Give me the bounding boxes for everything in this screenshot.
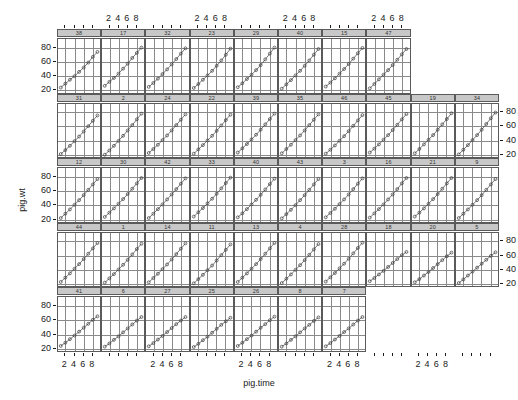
chart-panel — [322, 103, 366, 159]
panel-strip: 4 — [278, 223, 322, 231]
x-axis-tick — [224, 353, 225, 356]
x-axis-tick-label: 2 — [194, 13, 199, 23]
x-axis-tick — [127, 25, 128, 28]
data-series — [191, 297, 234, 352]
chart-panel — [57, 232, 101, 288]
panel-strip: 28 — [322, 223, 366, 231]
chart-panel — [366, 103, 410, 159]
panel-strip-label: 31 — [58, 94, 100, 102]
data-series — [102, 233, 145, 288]
y-axis-tick — [500, 255, 503, 256]
y-axis-tick-label: 40 — [31, 70, 51, 80]
x-axis-tick — [136, 25, 137, 28]
x-axis-tick — [383, 353, 384, 356]
panel-strip: 12 — [57, 158, 101, 166]
panel-strip: 26 — [234, 287, 278, 295]
panel-strip-label: 18 — [367, 223, 409, 231]
x-axis-tick — [171, 353, 172, 356]
chart-panel — [57, 167, 101, 223]
x-axis-tick — [180, 25, 181, 28]
panel-strip: 40 — [278, 29, 322, 37]
chart-panel — [101, 296, 145, 352]
y-axis-tick — [500, 240, 503, 241]
x-axis-tick — [92, 25, 93, 28]
panel-strip-label: 29 — [235, 29, 277, 37]
panel-strip: 6 — [101, 287, 145, 295]
x-axis-tick-label: 2 — [415, 359, 420, 369]
x-axis-tick — [215, 25, 216, 28]
x-axis-tick-label: 8 — [399, 13, 404, 23]
y-axis-tick-label: 20 — [31, 84, 51, 94]
y-axis-tick — [53, 348, 56, 349]
y-axis-tick-label: 60 — [31, 314, 51, 324]
x-axis-tick — [304, 25, 305, 28]
chart-panel — [190, 296, 234, 352]
chart-panel — [234, 167, 278, 223]
panel-strip: 21 — [411, 158, 455, 166]
x-axis-tick — [295, 353, 296, 356]
x-axis-tick-label: 2 — [62, 359, 67, 369]
chart-panel — [278, 103, 322, 159]
y-axis-tick — [53, 334, 56, 335]
x-axis-tick — [480, 353, 481, 356]
chart-panel — [278, 232, 322, 288]
y-axis-tick — [53, 204, 56, 205]
x-axis-tick — [401, 353, 402, 356]
x-axis-tick — [330, 353, 331, 356]
x-axis-tick-label: 2 — [371, 13, 376, 23]
data-series — [235, 39, 278, 94]
x-axis-tick — [304, 353, 305, 356]
x-axis-tick — [118, 25, 119, 28]
x-axis-tick — [197, 353, 198, 356]
data-series — [323, 233, 366, 288]
x-axis-tick — [206, 25, 207, 28]
y-axis-tick — [53, 89, 56, 90]
y-axis-tick — [500, 269, 503, 270]
panel-strip: 16 — [366, 158, 410, 166]
data-series — [279, 104, 322, 159]
x-axis-tick-label: 6 — [169, 359, 174, 369]
panel-strip-label: 20 — [412, 223, 454, 231]
panel-strip-label: 47 — [367, 29, 409, 37]
panel-strip-label: 28 — [323, 223, 365, 231]
panel-strip: 17 — [101, 29, 145, 37]
panel-strip-label: 25 — [191, 287, 233, 295]
data-series — [323, 104, 366, 159]
panel-strip-label: 1 — [102, 223, 144, 231]
panel-strip-label: 42 — [146, 158, 188, 166]
y-axis-tick — [53, 176, 56, 177]
panel-strip-label: 33 — [191, 158, 233, 166]
panel-strip: 9 — [455, 158, 499, 166]
chart-panel — [366, 167, 410, 223]
y-axis-tick-label: 80 — [506, 106, 516, 116]
trellis-plot: pig.wt pig.time 381732232940154720406080… — [0, 0, 518, 400]
data-series — [323, 39, 366, 94]
panel-strip: 24 — [145, 94, 189, 102]
y-axis-tick — [53, 75, 56, 76]
panel-strip: 7 — [322, 287, 366, 295]
y-axis-tick-label: 80 — [31, 300, 51, 310]
x-axis-tick — [357, 353, 358, 356]
y-axis-tick-label: 60 — [506, 120, 516, 130]
x-axis-tick-label: 2 — [239, 359, 244, 369]
chart-panel — [101, 232, 145, 288]
data-series — [323, 168, 366, 223]
panel-strip: 13 — [234, 223, 278, 231]
data-series — [58, 168, 101, 223]
x-axis-tick — [418, 353, 419, 356]
x-axis-tick — [259, 353, 260, 356]
data-series — [191, 233, 234, 288]
x-axis-tick — [74, 353, 75, 356]
chart-panel — [101, 167, 145, 223]
chart-panel — [322, 296, 366, 352]
y-axis-tick-label: 60 — [31, 56, 51, 66]
chart-panel — [57, 103, 101, 159]
x-axis-tick-label: 8 — [266, 359, 271, 369]
chart-panel — [278, 296, 322, 352]
y-axis-tick-label: 80 — [31, 42, 51, 52]
chart-panel — [411, 167, 455, 223]
x-axis-tick — [427, 353, 428, 356]
x-axis-tick-label: 6 — [390, 13, 395, 23]
chart-panel — [322, 167, 366, 223]
x-axis-tick — [436, 353, 437, 356]
